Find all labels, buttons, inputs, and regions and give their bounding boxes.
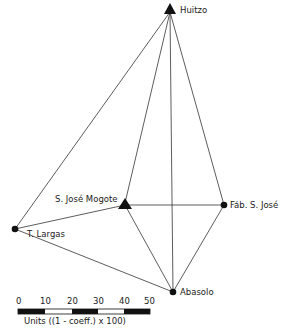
scale-tick-0: 0: [16, 296, 21, 306]
similarity-diagram: Huitzo S. José Mogote Fáb. S. José T. La…: [0, 0, 289, 336]
abasolo-dot-icon: [170, 289, 177, 296]
abasolo-label: Abasolo: [180, 287, 214, 297]
scale-tick-20: 20: [67, 296, 78, 306]
edge-huitzo-mogote: [125, 12, 170, 203]
mogote-label: S. José Mogote: [55, 194, 118, 204]
mogote-triangle-icon: [118, 198, 132, 209]
fab-dot-icon: [221, 202, 228, 209]
edge-mogote-largas: [15, 205, 125, 229]
largas-dot-icon: [12, 226, 19, 233]
scale-tick-50: 50: [144, 296, 155, 306]
huitzo-label: Huitzo: [180, 5, 207, 15]
largas-label: T. Largas: [26, 229, 65, 239]
edge-fab-abasolo: [173, 205, 224, 292]
fab-label: Fáb. S. José: [230, 200, 278, 210]
edge-mogote-abasolo: [125, 205, 173, 292]
scale-tick-30: 30: [93, 296, 104, 306]
scale-tick-10: 10: [40, 296, 51, 306]
edge-huitzo-fab: [170, 12, 224, 205]
huitzo-triangle-icon: [164, 3, 176, 14]
scale-tick-40: 40: [119, 296, 130, 306]
edges: [15, 12, 224, 292]
scale-caption: Units ((1 - coeff.) x 100): [24, 316, 126, 326]
edge-huitzo-abasolo: [170, 12, 173, 292]
scale-bar: 0 10 20 30 40 50 Units ((1 - coeff.) x 1…: [16, 296, 155, 326]
scale-segment-1: [18, 309, 45, 314]
scale-segment-3: [72, 309, 98, 314]
scale-segment-5: [124, 309, 150, 314]
